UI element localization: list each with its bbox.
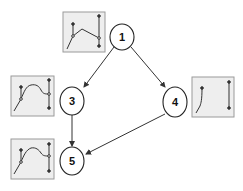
node-label: 5 [69, 155, 75, 167]
thumbnail-node-3 [11, 76, 54, 116]
thumbnail-node-1 [63, 12, 105, 52]
edge-1-to-4 [131, 47, 165, 87]
diagram-canvas: 1 3 4 5 [0, 0, 243, 191]
node-4[interactable]: 4 [163, 87, 187, 117]
node-label: 3 [69, 95, 75, 107]
edge-4-to-5 [86, 114, 165, 154]
edges [72, 47, 165, 154]
node-5[interactable]: 5 [60, 147, 84, 175]
node-label: 1 [119, 31, 125, 43]
thumbnail-node-4 [192, 77, 234, 117]
thumbnail-node-5 [11, 139, 54, 179]
edge-1-to-3 [84, 47, 114, 87]
node-3[interactable]: 3 [60, 87, 84, 115]
node-1[interactable]: 1 [110, 24, 134, 50]
node-label: 4 [172, 96, 179, 108]
